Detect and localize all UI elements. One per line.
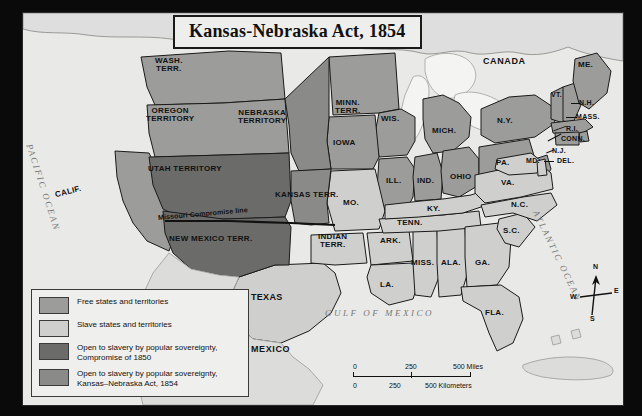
map-title: Kansas-Nebraska Act, 1854 <box>189 21 406 41</box>
label-georgia: GA. <box>475 259 490 267</box>
cuba-shape <box>523 357 613 380</box>
map-legend: Free states and territories Slave states… <box>31 289 249 397</box>
label-florida: FLA. <box>485 309 504 317</box>
scale-km-tick-0: 0 <box>353 382 357 389</box>
compass-west-label: W <box>570 293 577 300</box>
nebraska-territory-shape <box>285 57 331 171</box>
label-virginia: VA. <box>501 179 515 187</box>
label-ohio: OHIO <box>450 173 472 181</box>
label-nebraska-territory: NEBRASKA TERRITORY <box>238 109 286 126</box>
label-kansas-terr: KANSAS TERR. <box>275 191 339 199</box>
compass-south-label: S <box>590 315 595 322</box>
label-maine: ME. <box>578 61 593 69</box>
label-canada: CANADA <box>483 57 526 66</box>
leader-line-maryland <box>544 161 554 162</box>
label-wash-terr-line2: TERR. <box>156 64 182 73</box>
label-connecticut: CONN. <box>561 135 585 142</box>
scale-miles-tick-0: 0 <box>353 363 357 370</box>
legend-swatch-slave-states <box>39 320 69 337</box>
label-michigan: MICH. <box>432 127 456 135</box>
legend-label-free-states-line1: Free states and territories <box>77 297 168 306</box>
label-new-mexico-terr: NEW MEXICO TERR. <box>169 235 252 243</box>
scale-miles-bar-track <box>353 372 471 377</box>
scale-miles-bar-midtick <box>411 372 412 378</box>
legend-label-kansas-nebraska-1854-line2: Kansas–Nebraska Act, 1854 <box>77 379 178 388</box>
label-new-jersey: N.J. <box>552 147 566 154</box>
legend-label-kansas-nebraska-1854-line1: Open to slavery by popular sovereignty, <box>77 369 217 378</box>
legend-item-free-states[interactable]: Free states and territories <box>39 296 242 314</box>
label-new-hampshire: N.H. <box>579 99 594 106</box>
compass-north-label: N <box>593 263 598 270</box>
label-mississippi: MISS. <box>411 259 434 267</box>
label-kentucky: KY. <box>427 205 440 213</box>
map-title-box: Kansas-Nebraska Act, 1854 <box>173 15 422 49</box>
label-wash-terr: WASH. TERR. <box>155 57 183 74</box>
scale-km-tick-250: 250 <box>389 382 401 389</box>
label-mexico: MEXICO <box>251 345 290 354</box>
label-delaware: DEL. <box>557 157 574 164</box>
label-maryland: MD. <box>526 157 540 164</box>
legend-item-slave-states[interactable]: Slave states and territories <box>39 319 242 337</box>
label-pennsylvania: PA. <box>496 159 510 167</box>
map-canvas: CANADA MEXICO PACIFIC OCEAN ATLANTIC OCE… <box>22 12 624 406</box>
legend-label-compromise-1850-line1: Open to slavery by popular sovereignty, <box>77 343 217 352</box>
label-missouri: MO. <box>343 199 359 207</box>
label-wisconsin: WIS. <box>381 115 400 123</box>
label-oregon-territory-line2: TERRITORY <box>146 114 194 123</box>
scale-miles-labels: 0 250 500 Miles <box>353 363 503 372</box>
label-texas: TEXAS <box>251 293 283 302</box>
label-gulf-of-mexico: GULF OF MEXICO <box>325 309 434 318</box>
label-massachusetts: MASS. <box>576 113 600 120</box>
label-illinois: ILL. <box>386 177 401 185</box>
scale-miles-unit: 500 Miles <box>453 363 483 370</box>
label-south-carolina: S.C. <box>503 227 520 235</box>
legend-swatch-compromise-1850 <box>39 343 69 360</box>
legend-label-compromise-1850-line2: Compromise of 1850 <box>77 353 151 362</box>
legend-item-kansas-nebraska-1854[interactable]: Open to slavery by popular sovereignty, … <box>39 368 242 389</box>
legend-label-slave-states-line1: Slave states and territories <box>77 320 172 329</box>
label-iowa: IOWA <box>333 139 356 147</box>
label-north-carolina: N.C. <box>511 201 528 209</box>
bahamas-shape-2 <box>571 329 581 339</box>
label-indiana: IND. <box>417 177 434 185</box>
legend-label-slave-states: Slave states and territories <box>77 319 172 330</box>
label-indian-terr-line2: TERR. <box>320 240 346 249</box>
map-frame: CANADA MEXICO PACIFIC OCEAN ATLANTIC OCE… <box>0 0 642 416</box>
label-louisiana: LA. <box>380 281 394 289</box>
legend-label-compromise-1850: Open to slavery by popular sovereignty, … <box>77 342 217 363</box>
compass-rose: N E S W <box>568 263 624 325</box>
legend-item-compromise-1850[interactable]: Open to slavery by popular sovereignty, … <box>39 342 242 363</box>
legend-label-kansas-nebraska-1854: Open to slavery by popular sovereignty, … <box>77 368 217 389</box>
scale-km-labels: 0 250 500 Kilometers <box>353 382 503 391</box>
label-nebraska-territory-line2: TERRITORY <box>238 116 286 125</box>
label-indian-terr: INDIAN TERR. <box>318 233 347 250</box>
label-utah-territory: UTAH TERRITORY <box>148 165 222 173</box>
label-vermont: VT. <box>551 91 562 98</box>
scale-km-unit: 500 Kilometers <box>425 382 472 389</box>
label-tennessee: TENN. <box>397 219 423 227</box>
legend-swatch-kansas-nebraska-1854 <box>39 369 69 386</box>
great-lakes <box>425 53 476 98</box>
florida-shape <box>461 285 523 351</box>
legend-label-free-states: Free states and territories <box>77 296 168 307</box>
label-minn-terr-line2: TERR. <box>335 106 361 115</box>
compass-east-label: E <box>614 287 619 294</box>
label-oregon-territory: OREGON TERRITORY <box>146 107 194 124</box>
scale-miles-tick-250: 250 <box>405 363 417 370</box>
bahamas-shape <box>551 335 561 345</box>
label-new-york: N.Y. <box>497 117 513 125</box>
label-minn-terr: MINN. TERR. <box>335 99 361 116</box>
legend-swatch-free-states <box>39 297 69 314</box>
label-alabama: ALA. <box>441 259 461 267</box>
label-rhode-island: R.I. <box>566 125 578 132</box>
label-arkansas: ARK. <box>380 237 401 245</box>
map-scale-bar: 0 250 500 Miles 0 250 500 Kilometers <box>353 363 503 391</box>
